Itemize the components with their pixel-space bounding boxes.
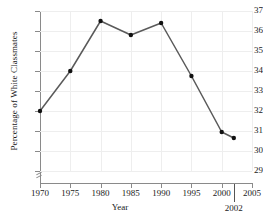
- annotation-label-2002: 2002: [214, 203, 254, 213]
- data-point-marker: [68, 69, 72, 73]
- data-point-marker: [232, 136, 236, 140]
- x-axis-title: Year: [40, 202, 200, 212]
- plot-area: [40, 11, 252, 171]
- y-axis-title: Percentage of White Classmates: [9, 1, 19, 181]
- data-point-marker: [98, 19, 102, 23]
- chart-figure: Percentage of White Classmates 293031323…: [0, 0, 263, 222]
- y-axis-break-icon: [36, 171, 42, 179]
- data-point-marker: [159, 21, 163, 25]
- data-point-marker: [189, 74, 193, 78]
- data-point-marker: [129, 33, 133, 37]
- x-axis-line: [40, 183, 252, 184]
- line-series: [40, 11, 252, 171]
- gridline-horizontal: [40, 171, 252, 172]
- data-point-marker: [220, 130, 224, 134]
- x-tick-label: 2005: [232, 189, 263, 198]
- series-line: [40, 21, 234, 138]
- gridline-vertical: [252, 11, 253, 171]
- data-point-marker: [38, 109, 42, 113]
- annotation-marker-2002: [234, 184, 235, 202]
